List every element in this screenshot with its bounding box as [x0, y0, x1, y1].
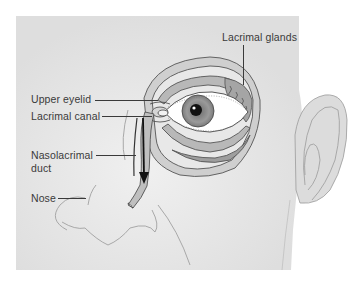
- leader-nose: [58, 198, 86, 199]
- lacrimal-apparatus-diagram: Lacrimal glands Upper eyelid Lacrimal ca…: [0, 0, 359, 290]
- ear: [295, 95, 347, 203]
- label-lacrimal-canal: Lacrimal canal: [31, 110, 100, 122]
- face-illustration: [0, 0, 359, 290]
- label-nasolacrimal-duct-line2: duct: [31, 162, 51, 174]
- leader-lacrimal-canal: [102, 116, 152, 117]
- leader-nasolacrimal-duct: [96, 155, 136, 156]
- label-nasolacrimal-duct-line1: Nasolacrimal: [31, 149, 93, 161]
- label-nose: Nose: [31, 192, 56, 204]
- pupil: [190, 104, 202, 116]
- label-lacrimal-glands: Lacrimal glands: [222, 31, 297, 43]
- leader-upper-eyelid: [95, 100, 158, 101]
- leader-lacrimal-glands: [243, 45, 244, 85]
- label-upper-eyelid: Upper eyelid: [31, 93, 91, 105]
